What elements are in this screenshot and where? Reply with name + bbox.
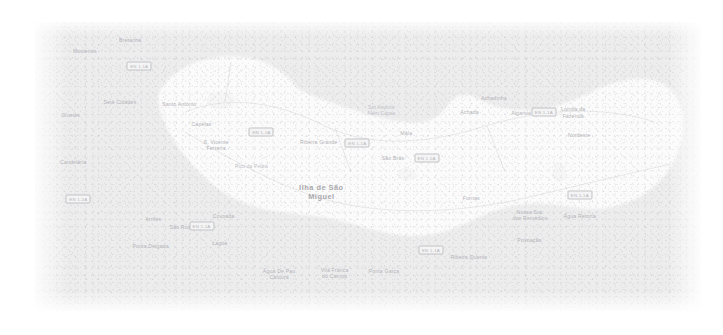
map-label-candelaria[interactable]: Candelária — [60, 159, 87, 165]
shield-povoacao[interactable]: EN 1-1A — [418, 246, 443, 255]
map-page: MosteirosBretanhaSete CidadesGinetesCand… — [0, 0, 723, 335]
map-label-lagoa[interactable]: Lagoa — [212, 240, 227, 246]
map-canvas[interactable]: MosteirosBretanhaSete CidadesGinetesCand… — [35, 22, 701, 311]
shield-west[interactable]: EN 1-2A — [66, 195, 91, 204]
map-label-ginetes[interactable]: Ginetes — [61, 112, 80, 118]
map-label-ponta-garca[interactable]: Ponta Garça — [369, 267, 400, 273]
map-label-bretanha[interactable]: Bretanha — [119, 37, 141, 43]
map-label-lomba-da-fazenda[interactable]: Lomba da Fazenda — [561, 106, 585, 118]
map-label-vila-franca-do-campo[interactable]: Vila Franca do Campo — [321, 267, 349, 279]
map-label-achadinha[interactable]: Achadinha — [481, 95, 507, 101]
map-label-agua-de-pau-caloura[interactable]: Água De Pau Caloura — [263, 267, 296, 279]
shield-capelas[interactable]: EN 1-1A — [249, 127, 274, 136]
map-label-covoada[interactable]: Covoada — [213, 213, 235, 219]
map-label-s-vicente-ferreira[interactable]: S. Vicente Ferreira — [204, 139, 229, 151]
shield-bretanha[interactable]: EN 1-1A — [127, 62, 152, 71]
shield-agua[interactable]: EN 1-1A — [567, 190, 592, 199]
shield-saobras[interactable]: EN 1-1A — [414, 153, 439, 162]
map-label-ribeira-grande[interactable]: Ribeira Grande — [300, 139, 337, 145]
map-label-algarvia[interactable]: Algarvia — [511, 110, 531, 116]
map-label-mosteiros[interactable]: Mosteiros — [73, 48, 97, 54]
map-label-santo-antonio[interactable]: Santo António — [162, 101, 196, 107]
map-label-sao-bras[interactable]: São Brás — [382, 155, 405, 161]
map-label-furnas[interactable]: Furnas — [463, 195, 480, 201]
map-label-ribeira-quente[interactable]: Ribeira Quente — [450, 254, 487, 260]
map-label-capelas[interactable]: Capelas — [191, 121, 211, 127]
shield-algarvia[interactable]: EN 1-1A — [531, 107, 556, 116]
map-label-ilha-de-sao-miguel[interactable]: Ilha de São Miguel — [299, 185, 344, 202]
map-label-nossa-sra-dos-remedios[interactable]: Nossa Sra. dos Remédios — [513, 208, 548, 220]
map-label-sto-antonio-alem-capas[interactable]: Sto António Além Capas — [367, 104, 395, 116]
map-label-povoacao[interactable]: Povoação — [517, 237, 541, 243]
map-label-nordeste[interactable]: Nordeste — [568, 132, 590, 138]
map-label-arrifes[interactable]: Arrifes — [145, 216, 161, 222]
shield-ribeira[interactable]: EN 1-1A — [345, 138, 370, 147]
map-label-ponta-delgada[interactable]: Ponta Delgada — [132, 243, 168, 249]
map-label-pico-da-pedra[interactable]: Pico da Pedra — [235, 164, 268, 170]
shield-saoroque[interactable]: EN 1-1A — [189, 221, 214, 230]
map-label-agua-retorta[interactable]: Água Retorta — [564, 213, 596, 219]
map-label-maia[interactable]: Maia — [400, 130, 412, 136]
map-label-sete-cidades[interactable]: Sete Cidades — [103, 99, 136, 105]
map-label-achada[interactable]: Achada — [460, 109, 479, 115]
